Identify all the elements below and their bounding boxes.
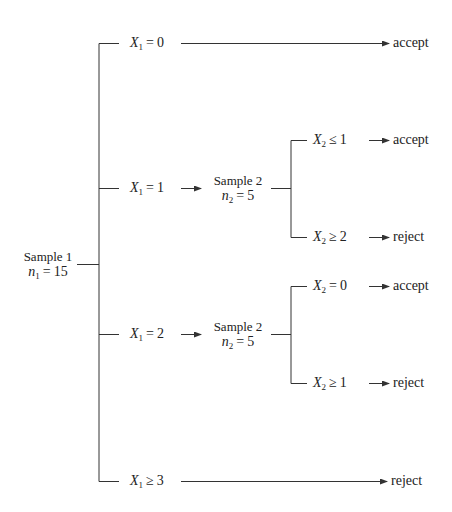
node-sample-2-lower: Sample 2 n2=5: [206, 319, 270, 354]
node-size: n2=5: [206, 188, 270, 208]
branch-x1-eq-0: X1=0: [130, 35, 164, 55]
branch-x1-ge-3: X1≥3: [130, 473, 164, 493]
outcome-accept: accept: [393, 278, 429, 293]
outcome-reject: reject: [393, 229, 424, 244]
branch-x2-le-1: X2≤1: [313, 132, 347, 152]
branch-x2-eq-0: X2=0: [313, 278, 347, 298]
node-size: n2=5: [206, 334, 270, 354]
double-sampling-tree-diagram: Sample 1 n1=15 X1=0 accept X1=1 Sample 2…: [0, 0, 452, 512]
branch-x1-eq-1: X1=1: [130, 180, 164, 200]
root-node-size: n1=15: [20, 264, 76, 284]
node-sample-2-upper: Sample 2 n2=5: [206, 173, 270, 208]
outcome-accept: accept: [393, 35, 429, 50]
node-title: Sample 2: [206, 173, 270, 188]
branch-x2-ge-2: X2≥2: [313, 229, 347, 249]
outcome-accept: accept: [393, 132, 429, 147]
root-node-sample-1: Sample 1 n1=15: [20, 249, 76, 284]
outcome-reject: reject: [393, 375, 424, 390]
node-title: Sample 2: [206, 319, 270, 334]
branch-x1-eq-2: X1=2: [130, 326, 164, 346]
root-node-title: Sample 1: [20, 249, 76, 264]
branch-x2-ge-1: X2≥1: [313, 375, 347, 395]
outcome-reject: reject: [391, 473, 422, 488]
